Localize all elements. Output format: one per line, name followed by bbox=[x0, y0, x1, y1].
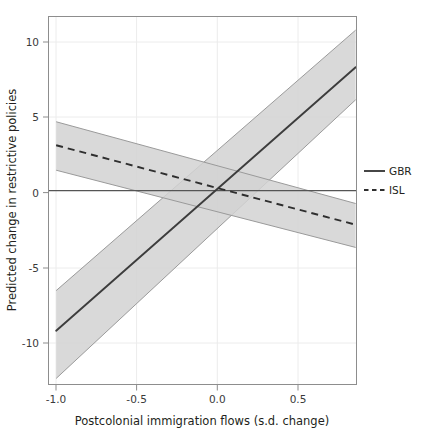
y-tick-label-5: 5 bbox=[32, 111, 39, 123]
x-axis-ticks bbox=[56, 385, 298, 391]
x-axis-title: Postcolonial immigration flows (s.d. cha… bbox=[75, 414, 329, 428]
chart-legend: GBR ISL bbox=[364, 165, 412, 196]
x-tick-label-0: 0.0 bbox=[209, 393, 226, 405]
legend-label-gbr: GBR bbox=[389, 165, 412, 177]
y-axis-title: Predicted change in restrictive policies bbox=[5, 89, 19, 312]
legend-label-isl: ISL bbox=[389, 184, 405, 196]
chart-figure: 10 5 0 -5 -10 -1.0 -0.5 0.0 0.5 Postcolo… bbox=[0, 0, 424, 437]
y-tick-label-0: 0 bbox=[32, 187, 39, 199]
chart-svg: 10 5 0 -5 -10 -1.0 -0.5 0.0 0.5 Postcolo… bbox=[0, 0, 424, 437]
x-tick-label-minus-1: -1.0 bbox=[46, 393, 67, 405]
y-tick-label-minus-5: -5 bbox=[29, 262, 39, 274]
y-tick-label-10: 10 bbox=[26, 36, 39, 48]
x-tick-label-minus-0-5: -0.5 bbox=[126, 393, 147, 405]
y-tick-label-minus-10: -10 bbox=[22, 337, 39, 349]
y-axis-ticks bbox=[43, 42, 49, 343]
x-tick-label-0-5: 0.5 bbox=[290, 393, 307, 405]
